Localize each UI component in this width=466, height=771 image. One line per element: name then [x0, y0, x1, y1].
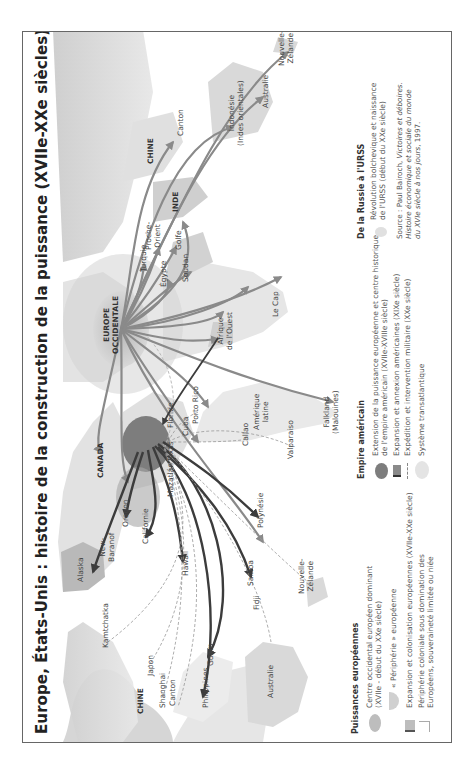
legend-dark-arrow-icon	[393, 465, 401, 477]
label-falkland: Falkland (Malouines)	[323, 390, 340, 434]
label-canton-east: Canton	[177, 109, 186, 136]
legend-russia-item-1: Révolution bolchevique et naissance de l…	[369, 83, 387, 220]
legend-american-title: Empire américain	[357, 400, 366, 479]
map-title: Europe, États-Unis : histoire de la cons…	[33, 31, 51, 734]
label-indonesie: Indonésie (Indes orientales)	[228, 80, 245, 146]
label-hawaii: Hawaii	[182, 551, 191, 576]
label-samoa: Samoa	[247, 560, 256, 586]
label-shanghai: Shanghai	[159, 673, 168, 708]
label-soudan: Soudan	[182, 254, 191, 282]
label-egypte: Égypte	[160, 261, 169, 287]
label-nouvelle-zelande-east: Nouvelle- Zélande	[278, 31, 295, 66]
legend-russia-title: De la Russie à l'URSS	[357, 144, 366, 239]
label-japon: Japon	[147, 655, 156, 676]
label-australie-west: Australie	[267, 665, 276, 698]
label-golfe: Golfe	[175, 230, 184, 250]
legend-european-item-1: Centre occidental européen dominant (XVI…	[365, 566, 383, 708]
legend-light-box-icon	[419, 721, 430, 732]
label-chine-east: CHINE	[147, 138, 156, 164]
label-inde: INDE	[172, 192, 181, 212]
label-fidji: Fidji	[253, 595, 262, 610]
legend-american-item-1: Extension de la puissance européenne et …	[371, 235, 389, 456]
label-philippines: Philippines	[202, 668, 211, 708]
legend-european-item-4: Périphérie coloniale sous domination des…	[417, 554, 435, 708]
label-le-cap: Le Cap	[272, 291, 281, 317]
legend-european-item-3: Expansion et colonisation européennes (X…	[405, 492, 414, 708]
source-title-3: du XVIe siècle à nos jours	[413, 147, 422, 239]
label-guam: Guam	[207, 644, 216, 666]
legend-european-item-2: « Périphérie » européenne	[389, 589, 398, 688]
map-frame: Europe, États-Unis : histoire de la cons…	[22, 31, 452, 743]
legend-european-title: Puissances européennes	[351, 623, 360, 734]
source-prefix: Source : Paul Bairoch,	[395, 158, 404, 239]
legend-american-item-2: Expansion et annexion américaines (XIXe …	[392, 274, 401, 456]
label-cuba: Cuba	[182, 417, 191, 436]
source-title-1: Victoires et déboires.	[395, 82, 404, 158]
legend-pale-blob-icon	[375, 227, 387, 237]
label-australie-east: Australie	[262, 75, 271, 108]
label-nouvelle-zelande-west: Nouvelle- Zélande	[298, 559, 315, 595]
legend-grey-oval-icon	[369, 714, 381, 732]
label-porto-rico: Porto Rico	[192, 386, 201, 424]
label-canada: CANADA	[97, 443, 106, 478]
legend-grey-arrow-icon	[405, 720, 415, 732]
label-mazatlan: Mazatlán	[167, 463, 176, 497]
legend-light-oval-icon	[415, 461, 429, 479]
label-oregon: Oregon	[122, 499, 131, 527]
label-valparaiso: Valparaiso	[287, 420, 296, 459]
legend-american-item-4: Système transatlantique	[417, 364, 426, 456]
label-callao: Callao	[242, 423, 251, 446]
legend-dark-oval-icon	[375, 463, 388, 479]
source-citation: Source : Paul Bairoch, Victoires et débo…	[395, 82, 422, 239]
label-floride: Floride	[167, 402, 176, 428]
label-chine-west: CHINE	[137, 688, 146, 714]
legend-dashed-line-icon	[407, 463, 408, 479]
us-core	[122, 416, 170, 472]
label-proche-orient: Proche- Orient	[145, 222, 162, 250]
label-new-baranof: New- Baranof	[99, 533, 116, 562]
label-californie: Californie	[142, 508, 151, 544]
label-europe-occidentale: EUROPE OCCIDENTALE	[103, 296, 120, 354]
label-polynesie: Polynésie	[257, 493, 266, 528]
label-kamtchatka: Kamtchatka	[102, 603, 111, 648]
label-afrique-ouest: Afrique de l'Ouest	[217, 312, 234, 350]
label-alaska: Alaska	[77, 557, 86, 582]
source-suffix: , 1997.	[413, 122, 422, 147]
label-amerique-latine: Amérique latine	[253, 394, 270, 430]
label-canton-west: Canton	[169, 679, 178, 706]
land-asia-east	[53, 31, 298, 262]
source-title-2: Histoire économique et sociale du monde	[404, 89, 413, 239]
label-texas: Texas	[167, 441, 176, 462]
legend-american-item-3: Expédition et intervention militaire (XX…	[403, 279, 412, 456]
